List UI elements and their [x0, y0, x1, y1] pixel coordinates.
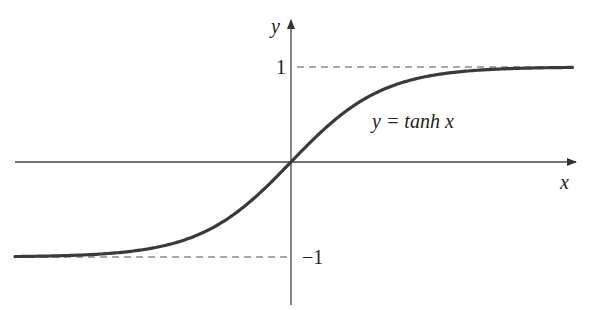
upper-asymptote-label: 1: [276, 56, 286, 78]
lower-asymptote-label: −1: [302, 246, 323, 268]
x-axis-label: x: [559, 171, 569, 193]
function-label-text: y = tanh x: [370, 110, 454, 133]
function-label: y = tanh x: [370, 110, 454, 133]
tanh-graph: y x 1 −1 y = tanh x: [0, 0, 592, 310]
y-axis-label: y: [269, 15, 280, 38]
